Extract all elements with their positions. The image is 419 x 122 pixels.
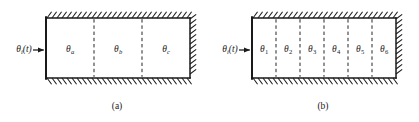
cell-temperature-label: θ4 xyxy=(332,45,340,55)
hatch-tick xyxy=(147,12,152,18)
bottom-wall-hatched xyxy=(252,78,398,84)
hatch-tick xyxy=(67,12,72,18)
top-wall-hatched xyxy=(46,12,192,18)
hatch-tick xyxy=(117,12,122,18)
hatch-tick xyxy=(177,78,182,84)
hatch-tick xyxy=(298,78,303,84)
hatch-tick xyxy=(318,78,323,84)
hatch-tick xyxy=(378,78,383,84)
hatch-tick xyxy=(162,78,167,84)
hatch-tick xyxy=(273,12,278,18)
hatch-tick xyxy=(323,78,328,84)
hatch-tick xyxy=(396,14,402,19)
diagram-canvas xyxy=(0,0,419,122)
hatch-tick xyxy=(137,12,142,18)
hatch-tick xyxy=(97,78,102,84)
hatch-tick xyxy=(167,12,172,18)
cell-temperature-label: θ5 xyxy=(356,45,364,55)
theta-glyph: θ xyxy=(308,44,313,54)
hatch-tick xyxy=(52,78,57,84)
hatch-tick xyxy=(333,12,338,18)
hatch-tick xyxy=(137,78,142,84)
hatch-tick xyxy=(338,12,343,18)
hatch-tick xyxy=(283,12,288,18)
theta-glyph: θ xyxy=(332,44,337,54)
theta-glyph: θ xyxy=(380,44,385,54)
hatch-tick xyxy=(187,12,192,18)
hatch-tick xyxy=(190,64,196,69)
hatch-tick xyxy=(190,59,196,64)
hatch-tick xyxy=(117,78,122,84)
hatch-tick xyxy=(298,12,303,18)
theta-subscript: 4 xyxy=(337,48,340,55)
theta-subscript: 3 xyxy=(313,48,316,55)
hatch-tick xyxy=(303,12,308,18)
hatch-tick xyxy=(172,12,177,18)
hatch-tick xyxy=(373,12,378,18)
hatch-tick xyxy=(157,78,162,84)
hatch-tick xyxy=(363,12,368,18)
hatch-tick xyxy=(87,78,92,84)
hatch-tick xyxy=(353,12,358,18)
right-wall-hatched xyxy=(396,14,402,78)
hatch-tick xyxy=(333,78,338,84)
hatch-tick xyxy=(358,78,363,84)
panel-caption: (b) xyxy=(317,101,328,111)
cell-temperature-label: θ1 xyxy=(260,45,268,55)
cell-temperature-label: θa xyxy=(66,45,74,55)
hatch-tick xyxy=(343,12,348,18)
theta-glyph: θ xyxy=(356,44,361,54)
hatch-tick xyxy=(77,12,82,18)
hatch-tick xyxy=(358,12,363,18)
theta-time-argument: (t) xyxy=(23,44,32,54)
hatch-tick xyxy=(172,78,177,84)
hatch-tick xyxy=(378,12,383,18)
theta-subscript: 2 xyxy=(289,48,292,55)
hatch-tick xyxy=(72,12,77,18)
hatch-tick xyxy=(268,78,273,84)
theta-subscript: 1 xyxy=(265,48,268,55)
hatch-tick xyxy=(62,78,67,84)
hatch-tick xyxy=(162,12,167,18)
hatch-tick xyxy=(396,44,402,49)
hatch-tick xyxy=(122,12,127,18)
hatch-tick xyxy=(288,78,293,84)
theta-glyph: θ xyxy=(284,44,289,54)
hatch-tick xyxy=(87,12,92,18)
hatch-tick xyxy=(353,78,358,84)
theta-subscript: b xyxy=(119,48,122,55)
hatch-tick xyxy=(127,78,132,84)
hatch-tick xyxy=(263,12,268,18)
hatch-tick xyxy=(263,78,268,84)
hatch-tick xyxy=(308,78,313,84)
hatch-tick xyxy=(373,78,378,84)
hatch-tick xyxy=(82,12,87,18)
hatch-tick xyxy=(147,78,152,84)
hatch-tick xyxy=(167,78,172,84)
hatch-tick xyxy=(383,12,388,18)
hatch-tick xyxy=(182,78,187,84)
hatch-tick xyxy=(278,12,283,18)
figure-root: θi(t)θaθbθc(a)θi(t)θ1θ2θ3θ4θ5θ6(b) xyxy=(0,0,419,122)
hatch-tick xyxy=(190,39,196,44)
input-temperature-label: θi(t) xyxy=(16,45,31,55)
hatch-tick xyxy=(253,12,258,18)
hatch-tick xyxy=(190,19,196,24)
hatch-tick xyxy=(396,34,402,39)
hatch-tick xyxy=(258,12,263,18)
cell-temperature-label: θb xyxy=(114,45,122,55)
hatch-tick xyxy=(112,12,117,18)
right-wall-hatched xyxy=(190,14,196,78)
hatch-tick xyxy=(132,12,137,18)
hatch-tick xyxy=(97,12,102,18)
hatch-tick xyxy=(368,12,373,18)
hatch-tick xyxy=(107,12,112,18)
hatch-tick xyxy=(348,78,353,84)
svg-shape-layer xyxy=(33,12,402,84)
hatch-tick xyxy=(72,78,77,84)
hatch-tick xyxy=(293,12,298,18)
hatch-tick xyxy=(182,12,187,18)
hatch-tick xyxy=(142,78,147,84)
hatch-tick xyxy=(92,12,97,18)
hatch-tick xyxy=(57,12,62,18)
